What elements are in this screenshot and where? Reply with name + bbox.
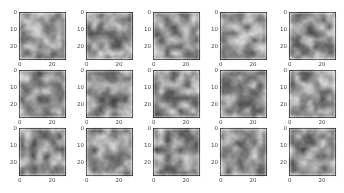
y-tick-label: 10 [275, 143, 287, 149]
y-tick-label: 10 [275, 27, 287, 33]
y-tick-label: 10 [206, 143, 218, 149]
y-tick-label: 10 [139, 143, 151, 149]
x-tick-label: 20 [250, 120, 257, 126]
x-tick-label: 0 [152, 178, 156, 184]
y-tick-label: 20 [275, 44, 287, 50]
y-tick-label: 20 [5, 102, 17, 108]
x-tick-label: 0 [85, 178, 89, 184]
x-tick-label: 20 [49, 62, 56, 68]
noise-image [221, 71, 266, 117]
y-tick-label: 0 [72, 68, 84, 74]
y-tick-label: 10 [139, 85, 151, 91]
y-tick-label: 0 [206, 68, 218, 74]
y-tick-label: 20 [275, 102, 287, 108]
subplot-2 [86, 12, 133, 60]
y-tick-label: 20 [206, 102, 218, 108]
y-tick-label: 0 [5, 10, 17, 16]
y-tick-label: 0 [5, 68, 17, 74]
x-tick-label: 20 [319, 120, 326, 126]
noise-image [20, 13, 65, 59]
noise-image [290, 71, 335, 117]
subplot-9 [220, 70, 267, 118]
y-tick-label: 0 [275, 68, 287, 74]
noise-image [221, 13, 266, 59]
noise-image [154, 13, 199, 59]
noise-image [154, 71, 199, 117]
subplot-11 [19, 128, 66, 176]
x-tick-label: 20 [49, 178, 56, 184]
x-tick-label: 0 [18, 178, 22, 184]
x-tick-label: 0 [152, 120, 156, 126]
y-tick-label: 20 [139, 102, 151, 108]
subplot-10 [289, 70, 336, 118]
x-tick-label: 0 [18, 120, 22, 126]
y-tick-label: 0 [139, 68, 151, 74]
y-tick-label: 0 [206, 10, 218, 16]
subplot-4 [220, 12, 267, 60]
noise-image [20, 71, 65, 117]
x-tick-label: 0 [85, 62, 89, 68]
y-tick-label: 0 [206, 126, 218, 132]
x-tick-label: 0 [219, 62, 223, 68]
noise-image [154, 129, 199, 175]
y-tick-label: 20 [5, 160, 17, 166]
y-tick-label: 0 [72, 126, 84, 132]
y-tick-label: 10 [5, 27, 17, 33]
x-tick-label: 0 [219, 178, 223, 184]
noise-image [20, 129, 65, 175]
x-tick-label: 20 [183, 120, 190, 126]
x-tick-label: 20 [116, 178, 123, 184]
subplot-7 [86, 70, 133, 118]
y-tick-label: 20 [139, 160, 151, 166]
x-tick-label: 0 [219, 120, 223, 126]
noise-image [87, 13, 132, 59]
noise-image [290, 13, 335, 59]
y-tick-label: 10 [139, 27, 151, 33]
y-tick-label: 0 [5, 126, 17, 132]
subplot-8 [153, 70, 200, 118]
y-tick-label: 20 [206, 160, 218, 166]
noise-image [221, 129, 266, 175]
y-tick-label: 0 [72, 10, 84, 16]
y-tick-label: 10 [72, 85, 84, 91]
x-tick-label: 20 [183, 178, 190, 184]
y-tick-label: 0 [139, 10, 151, 16]
y-tick-label: 20 [72, 102, 84, 108]
y-tick-label: 20 [72, 160, 84, 166]
noise-image [290, 129, 335, 175]
x-tick-label: 20 [250, 178, 257, 184]
y-tick-label: 20 [5, 44, 17, 50]
x-tick-label: 20 [183, 62, 190, 68]
subplot-6 [19, 70, 66, 118]
y-tick-label: 10 [72, 143, 84, 149]
y-tick-label: 20 [72, 44, 84, 50]
y-tick-label: 20 [275, 160, 287, 166]
y-tick-label: 10 [5, 143, 17, 149]
noise-image [87, 129, 132, 175]
y-tick-label: 10 [275, 85, 287, 91]
x-tick-label: 20 [319, 178, 326, 184]
x-tick-label: 20 [250, 62, 257, 68]
y-tick-label: 0 [139, 126, 151, 132]
subplot-1 [19, 12, 66, 60]
x-tick-label: 0 [288, 178, 292, 184]
x-tick-label: 20 [319, 62, 326, 68]
y-tick-label: 20 [206, 44, 218, 50]
subplot-14 [220, 128, 267, 176]
y-tick-label: 10 [72, 27, 84, 33]
y-tick-label: 10 [206, 85, 218, 91]
y-tick-label: 10 [206, 27, 218, 33]
subplot-5 [289, 12, 336, 60]
x-tick-label: 0 [85, 120, 89, 126]
x-tick-label: 0 [18, 62, 22, 68]
y-tick-label: 0 [275, 126, 287, 132]
subplot-15 [289, 128, 336, 176]
x-tick-label: 20 [116, 120, 123, 126]
subplot-3 [153, 12, 200, 60]
subplot-13 [153, 128, 200, 176]
x-tick-label: 0 [152, 62, 156, 68]
subplot-12 [86, 128, 133, 176]
y-tick-label: 10 [5, 85, 17, 91]
x-tick-label: 0 [288, 120, 292, 126]
noise-image [87, 71, 132, 117]
